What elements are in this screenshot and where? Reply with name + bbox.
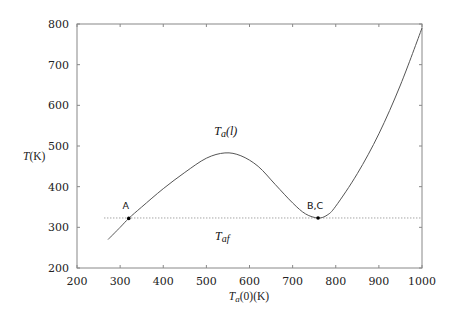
x-tick-label: 400 [153,275,174,288]
y-tick-label: 600 [48,99,69,112]
x-axis-label: Ta(0)(K) [229,290,269,304]
x-axis-ticks: 2003004005006007008009001000 [67,24,437,288]
point-label: B,C [307,200,324,211]
plot-border [77,24,422,268]
curve-label: Ta(l) [214,124,237,139]
plot-frame [77,24,422,268]
x-tick-label: 1000 [408,275,436,288]
series-layer [104,28,422,239]
x-tick-label: 900 [368,275,389,288]
y-tick-label: 500 [48,140,69,153]
x-tick-label: 200 [67,275,88,288]
y-axis-label: T(K) [23,150,46,163]
x-tick-label: 700 [282,275,303,288]
curve-annotations: Ta(l)Taf [214,124,237,244]
y-tick-label: 400 [48,181,69,194]
curve-label: Taf [215,229,231,244]
y-axis-ticks: 200300400500600700800 [48,18,422,275]
line-chart: 2003004005006007008009001000 20030040050… [0,0,454,322]
x-tick-label: 800 [325,275,346,288]
y-axis-unit: (K) [29,150,45,163]
y-tick-label: 800 [48,18,69,31]
ta-curve [108,28,422,239]
y-tick-label: 300 [48,221,69,234]
x-tick-label: 600 [239,275,260,288]
y-tick-label: 700 [48,59,69,72]
x-tick-label: 500 [196,275,217,288]
y-tick-label: 200 [48,262,69,275]
point-marker [316,216,320,220]
point-marker [127,217,131,221]
point-label: A [123,200,130,211]
x-tick-label: 300 [110,275,131,288]
